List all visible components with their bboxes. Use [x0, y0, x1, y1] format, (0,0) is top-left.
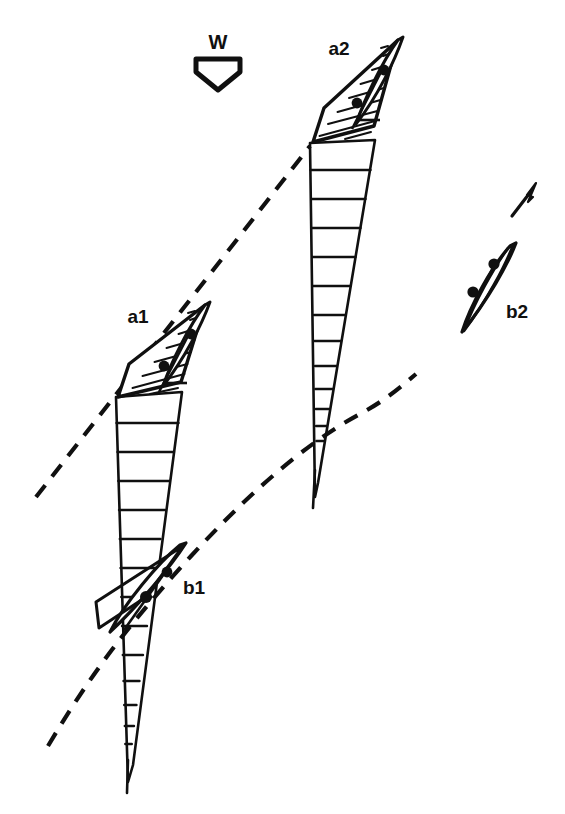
- boat-a2-label: a2: [328, 38, 349, 59]
- boat-b2[interactable]: b2: [462, 243, 528, 332]
- track-b-dashed-curve: [48, 374, 416, 746]
- boat-b2-crew-dot-2: [467, 286, 478, 297]
- b2-heading-arrow: [512, 183, 536, 216]
- cone-a2-outline: [310, 140, 375, 497]
- boat-a1[interactable]: a1: [118, 302, 210, 397]
- cone-a2-spine: [313, 470, 315, 508]
- wind-arrow-icon: [196, 59, 240, 90]
- b2-heading-arrow-head: [527, 183, 536, 202]
- boat-a2-crew-dot-1: [379, 65, 390, 76]
- boat-a2-crew-dot-2: [352, 98, 363, 109]
- boat-a1-crew-dot-2: [159, 361, 170, 372]
- boat-b1-label: b1: [183, 577, 206, 598]
- boat-b1-crew-dot-2: [140, 591, 152, 603]
- cone-a1-spine: [127, 760, 128, 793]
- boat-b2-label: b2: [506, 301, 528, 322]
- boat-a1-label: a1: [127, 306, 149, 327]
- boat-a2-sail: [313, 40, 398, 142]
- wind-label: W: [209, 31, 228, 53]
- boat-b1-crew-dot-1: [162, 567, 173, 578]
- wind-shadow-cone-a2: [310, 140, 375, 508]
- diagram-canvas: a2 a1: [0, 0, 565, 814]
- sailing-tactics-diagram: a2 a1: [0, 0, 565, 814]
- wind-indicator: W: [196, 31, 240, 90]
- boat-a1-crew-dot-1: [186, 329, 197, 340]
- boat-a2[interactable]: a2: [313, 37, 403, 142]
